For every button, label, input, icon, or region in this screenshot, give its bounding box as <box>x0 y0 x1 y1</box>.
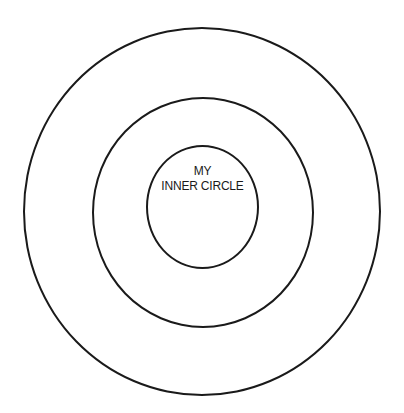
inner-circle-label-line-1: MY <box>146 164 259 179</box>
inner-circle-label-line-2: INNER CIRCLE <box>146 179 259 194</box>
inner-circle-label: MY INNER CIRCLE <box>146 164 259 194</box>
